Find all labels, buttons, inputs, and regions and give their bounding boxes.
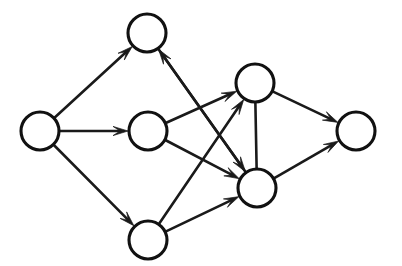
graph-node-lower-right[interactable] [238,169,276,207]
graph-canvas [0,0,402,266]
graph-edge-middle-to-upper-right [166,95,229,123]
node-circle-upper-right[interactable] [236,64,274,102]
graph-node-bottom[interactable] [129,221,167,259]
arrowhead-icon-lower-right-to-output [323,141,338,152]
graph-diagram [0,0,402,266]
graph-edge-bottom-to-lower-right [166,200,231,231]
node-layer [21,14,375,259]
graph-node-input[interactable] [21,112,59,150]
graph-edge-upper-right-to-output [273,92,330,119]
graph-edge-upper-right-to-lower-right [255,103,256,168]
arrowhead-icon-bottom-to-upper-right [231,100,243,115]
graph-edge-lower-right-to-output [274,145,331,178]
node-circle-top[interactable] [128,14,166,52]
node-circle-bottom[interactable] [129,221,167,259]
graph-node-middle[interactable] [129,112,167,150]
graph-node-upper-right[interactable] [236,64,274,102]
node-circle-input[interactable] [21,112,59,150]
graph-edge-middle-to-lower-right [166,140,232,175]
node-circle-output[interactable] [337,112,375,150]
graph-edge-input-to-bottom [54,145,128,220]
edge-layer [54,47,339,232]
graph-edge-bottom-to-upper-right [159,106,239,223]
graph-node-output[interactable] [337,112,375,150]
graph-edge-input-to-top [55,52,126,117]
node-circle-lower-right[interactable] [238,169,276,207]
graph-node-top[interactable] [128,14,166,52]
node-circle-middle[interactable] [129,112,167,150]
